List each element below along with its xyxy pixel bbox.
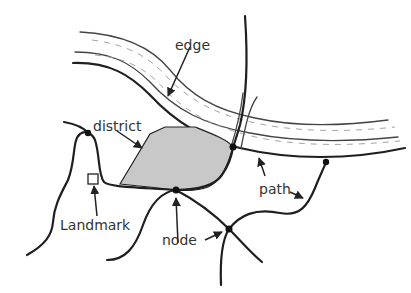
landmark-icon [88, 174, 98, 184]
node-dot [230, 144, 237, 151]
district-label: district [93, 118, 142, 134]
node-dot [226, 226, 233, 233]
edge-label: edge [175, 37, 210, 53]
node-dot [323, 159, 329, 165]
landmark-label: Landmark [60, 217, 131, 233]
river-edge [73, 32, 405, 157]
city-image-diagram: edge district path Landmark node [0, 0, 411, 293]
path-label: path [259, 181, 291, 197]
node-dot [85, 130, 91, 136]
node-dot [173, 187, 180, 194]
bridge-road [231, 16, 257, 148]
node-label: node [162, 232, 197, 248]
